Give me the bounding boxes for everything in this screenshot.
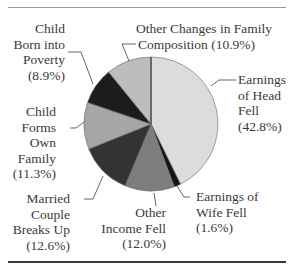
label-line: (12.0%) [101,236,166,252]
label-line: Fell [238,103,286,119]
label-line: (8.9%) [14,68,65,84]
label-other-changes: Other Changes in Family Composition (10.… [136,21,272,52]
label-line: of Head [238,88,286,104]
label-child-born-poverty: Child Born into Poverty (8.9%) [14,21,65,83]
label-line: Own [13,135,56,151]
leader-head [211,80,236,86]
leader-wife [177,186,190,197]
label-line: Other Changes in Family [136,21,272,37]
label-line: Earnings [238,72,286,88]
label-line: Child [13,104,56,120]
leader-child-born [68,52,93,84]
pie-slices [84,57,218,191]
label-line: Couple [13,207,70,223]
label-line: Poverty [14,52,65,68]
leader-other-changes [122,44,136,61]
leader-married [84,176,103,199]
label-line: (12.6%) [13,238,70,254]
label-line: (42.8%) [238,119,286,135]
label-line: Composition (10.9%) [138,37,272,53]
leader-child-forms [70,122,84,128]
label-line: Earnings of [196,189,259,205]
label-other-income: Other Income Fell (12.0%) [101,205,166,252]
label-earnings-head: Earnings of Head Fell (42.8%) [238,72,286,134]
label-line: Forms [13,120,56,136]
label-child-forms-family: Child Forms Own Family (11.3%) [13,104,56,182]
label-line: Income Fell [101,221,166,237]
label-married-couple: Married Couple Breaks Up (12.6%) [13,191,70,253]
label-line: Married [13,191,70,207]
label-line: Breaks Up [13,222,70,238]
label-line: Family [13,151,56,167]
bottom-rule [8,261,286,263]
label-line: (1.6%) [196,220,259,236]
label-line: Child [14,21,65,37]
label-line: Wife Fell [196,205,259,221]
label-earnings-wife: Earnings of Wife Fell (1.6%) [196,189,259,236]
label-line: Other [101,205,166,221]
label-line: (11.3%) [13,166,56,182]
label-line: Born into [14,37,65,53]
